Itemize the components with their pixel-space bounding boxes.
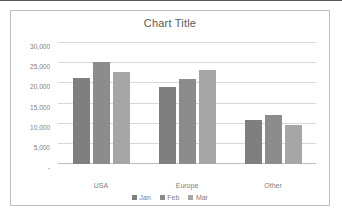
bar[interactable] [265,115,282,164]
bar[interactable] [93,62,110,164]
bar[interactable] [285,125,302,164]
bar[interactable] [73,78,90,164]
bar[interactable] [179,79,196,164]
x-axis-category-label: Europe [176,182,199,189]
legend-label: Feb [167,194,179,201]
x-axis-category-label: USA [94,182,108,189]
x-axis-category-labels: USAEuropeOther [58,177,316,189]
chart-area[interactable]: Chart Title 30,00025,00020,00015,00010,0… [10,10,330,206]
plot-area[interactable] [58,35,316,172]
legend-item[interactable]: Jan [132,194,151,201]
legend-item[interactable]: Feb [160,194,180,201]
bar-group [144,35,230,164]
legend-item[interactable]: Mar [188,194,208,201]
chart-screenshot: Chart Title 30,00025,00020,00015,00010,0… [0,0,342,216]
legend-swatch-icon [132,195,137,200]
bar-group [230,35,316,164]
legend-swatch-icon [188,195,193,200]
chart-legend[interactable]: JanFebMar [11,194,329,201]
legend-label: Jan [140,194,151,201]
bar[interactable] [245,120,262,164]
legend-swatch-icon [160,195,165,200]
bar-groups [58,35,316,164]
bar[interactable] [159,87,176,164]
bar[interactable] [199,70,216,164]
top-divider-rule [0,0,342,1]
chart-title[interactable]: Chart Title [11,17,329,29]
legend-label: Mar [196,194,208,201]
bar[interactable] [113,72,130,164]
x-axis-category-label: Other [264,182,282,189]
bar-group [58,35,144,164]
y-axis-tick-labels: 30,00025,00020,00015,00010,0005,000- [11,35,55,172]
